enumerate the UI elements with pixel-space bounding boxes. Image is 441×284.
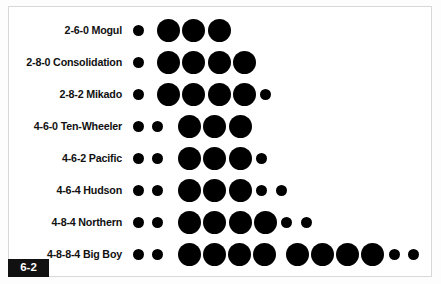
driving-wheel-icon [286,243,309,266]
locomotive-wheel-arrangement-figure: 2-6-0 Mogul2-8-0 Consolidation2-8-2 Mika… [0,0,441,284]
driving-wheel-icon [229,179,252,202]
driving-wheel-icon [203,179,226,202]
wheel-track [126,142,436,174]
figure-number-badge: 6-2 [8,259,49,277]
driving-wheel-icon [182,19,205,42]
driving-wheel-icon [203,147,226,170]
wheel-track [126,238,436,270]
driving-wheel-icon [233,51,256,74]
driving-wheel-icon [178,147,201,170]
wheel-arrangement-row: 4-6-4 Hudson [0,174,441,206]
pilot-wheel-icon [152,185,163,196]
pilot-wheel-icon [133,153,144,164]
wheel-arrangement-row: 2-6-0 Mogul [0,14,441,46]
wheel-track [126,110,436,142]
driving-wheel-icon [208,51,231,74]
wheel-track [126,174,436,206]
driving-wheel-icon [361,243,384,266]
wheel-arrangement-row: 2-8-0 Consolidation [0,46,441,78]
wheel-arrangement-row: 4-6-2 Pacific [0,142,441,174]
pilot-wheel-icon [152,217,163,228]
wheel-arrangement-row: 4-8-4 Northern [0,206,441,238]
row-label: 4-6-0 Ten-Wheeler [9,110,122,142]
row-label: 2-6-0 Mogul [9,14,122,46]
wheel-track [126,46,436,78]
row-label: 4-6-4 Hudson [9,174,122,206]
pilot-wheel-icon [389,249,400,260]
driving-wheel-icon [182,51,205,74]
pilot-wheel-icon [281,217,292,228]
driving-wheel-icon [178,115,201,138]
pilot-wheel-icon [133,121,144,132]
row-label: 4-6-2 Pacific [9,142,122,174]
pilot-wheel-icon [152,153,163,164]
wheel-track [126,206,436,238]
driving-wheel-icon [253,243,276,266]
driving-wheel-icon [178,179,201,202]
driving-wheel-icon [208,83,231,106]
pilot-wheel-icon [256,185,267,196]
row-label: 2-8-2 Mikado [9,78,122,110]
pilot-wheel-icon [152,121,163,132]
pilot-wheel-icon [133,57,144,68]
pilot-wheel-icon [133,217,144,228]
driving-wheel-icon [182,83,205,106]
wheel-arrangement-row: 4-6-0 Ten-Wheeler [0,110,441,142]
figure-number-label: 6-2 [20,262,37,274]
wheel-track [126,78,436,110]
row-label: 2-8-0 Consolidation [9,46,122,78]
driving-wheel-icon [233,83,256,106]
wheel-arrangement-row: 4-8-8-4 Big Boy [0,238,441,270]
driving-wheel-icon [229,211,252,234]
driving-wheel-icon [228,243,251,266]
wheel-arrangement-rows: 2-6-0 Mogul2-8-0 Consolidation2-8-2 Mika… [0,0,441,284]
pilot-wheel-icon [133,249,144,260]
driving-wheel-icon [336,243,359,266]
driving-wheel-icon [311,243,334,266]
pilot-wheel-icon [260,89,271,100]
driving-wheel-icon [203,243,226,266]
driving-wheel-icon [254,211,277,234]
pilot-wheel-icon [152,249,163,260]
driving-wheel-icon [178,211,201,234]
driving-wheel-icon [229,147,252,170]
wheel-track [126,14,436,46]
driving-wheel-icon [203,115,226,138]
driving-wheel-icon [157,51,180,74]
pilot-wheel-icon [133,185,144,196]
pilot-wheel-icon [408,249,419,260]
pilot-wheel-icon [256,153,267,164]
row-label: 4-8-4 Northern [9,206,122,238]
driving-wheel-icon [157,19,180,42]
driving-wheel-icon [178,243,201,266]
driving-wheel-icon [208,19,231,42]
pilot-wheel-icon [133,25,144,36]
pilot-wheel-icon [276,185,287,196]
driving-wheel-icon [229,115,252,138]
wheel-arrangement-row: 2-8-2 Mikado [0,78,441,110]
pilot-wheel-icon [301,217,312,228]
pilot-wheel-icon [133,89,144,100]
driving-wheel-icon [157,83,180,106]
driving-wheel-icon [203,211,226,234]
